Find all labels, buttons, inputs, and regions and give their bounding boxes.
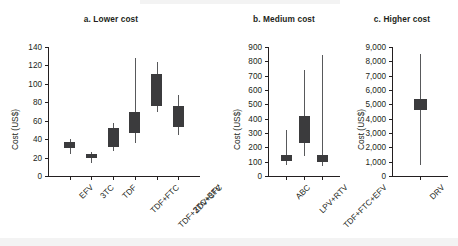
y-axis-line	[392, 47, 393, 177]
y-axis-tick-label: 500	[228, 100, 262, 109]
y-axis-tick-label: 40	[8, 135, 42, 144]
figure-canvas: a. Lower cost Cost (US$) 020406080100120…	[0, 0, 458, 246]
y-axis-tick-label: 140	[8, 43, 42, 52]
y-axis-tick	[389, 90, 392, 91]
y-axis-tick-label: 120	[8, 61, 42, 70]
y-axis-tick	[389, 162, 392, 163]
panel-higher-cost: c. Higher cost Cost (US$) 01,0002,0003,0…	[346, 0, 458, 246]
x-axis-category-label: TDF	[121, 183, 139, 201]
x-axis-tick	[178, 177, 179, 180]
box-plot-box	[151, 74, 162, 106]
y-axis-tick-label: 400	[228, 114, 262, 123]
panel-lower-cost: a. Lower cost Cost (US$) 020406080100120…	[0, 0, 222, 246]
x-axis-tick	[157, 177, 158, 180]
y-axis-tick-label: 60	[8, 116, 42, 125]
y-axis-tick-label: 0	[352, 172, 386, 181]
y-axis-tick	[45, 176, 48, 177]
panel-c-plot-area: 01,0002,0003,0004,0005,0006,0007,0008,00…	[346, 0, 458, 246]
x-axis-tick	[91, 177, 92, 180]
y-axis-tick-label: 100	[228, 157, 262, 166]
y-axis-tick	[45, 139, 48, 140]
y-axis-tick	[389, 147, 392, 148]
box-plot-box	[299, 116, 310, 143]
y-axis-tick-label: 700	[228, 71, 262, 80]
box-plot-box	[414, 99, 427, 110]
x-axis-category-label: ZDV+3TC	[192, 183, 224, 215]
y-axis-tick	[45, 65, 48, 66]
y-axis-tick	[265, 119, 268, 120]
y-axis-tick	[45, 47, 48, 48]
y-axis-tick	[265, 176, 268, 177]
x-axis-tick	[322, 177, 323, 180]
x-axis-tick	[113, 177, 114, 180]
x-axis-category-label: DRV	[428, 183, 446, 201]
y-axis-tick-label: 0	[228, 172, 262, 181]
y-axis-tick	[265, 133, 268, 134]
box-plot-box	[86, 154, 97, 159]
box-whisker	[304, 70, 305, 156]
y-axis-tick-label: 600	[228, 86, 262, 95]
y-axis-tick	[389, 76, 392, 77]
x-axis-tick	[286, 177, 287, 180]
y-axis-tick	[265, 90, 268, 91]
panel-a-plot-area: 020406080100120140EFV3TCTDFTDF+FTCTDF+3T…	[0, 0, 222, 246]
y-axis-tick-label: 6,000	[352, 86, 386, 95]
y-axis-tick	[45, 158, 48, 159]
y-axis-tick-label: 8,000	[352, 57, 386, 66]
y-axis-tick	[45, 121, 48, 122]
y-axis-tick	[265, 47, 268, 48]
y-axis-tick-label: 1,000	[352, 157, 386, 166]
panel-b-plot-area: 0100200300400500600700800900ABCLPV+RTVTD…	[222, 0, 346, 246]
y-axis-tick	[389, 47, 392, 48]
y-axis-tick-label: 5,000	[352, 100, 386, 109]
x-axis-tick	[420, 177, 421, 180]
y-axis-tick	[265, 61, 268, 62]
y-axis-tick	[265, 162, 268, 163]
y-axis-tick-label: 9,000	[352, 43, 386, 52]
y-axis-tick-label: 200	[228, 143, 262, 152]
y-axis-tick-label: 80	[8, 98, 42, 107]
box-plot-box	[108, 128, 119, 146]
y-axis-tick-label: 300	[228, 129, 262, 138]
y-axis-tick	[389, 176, 392, 177]
box-plot-box	[173, 106, 184, 127]
y-axis-tick	[389, 61, 392, 62]
x-axis-tick	[135, 177, 136, 180]
x-axis-category-label: EFV	[77, 183, 95, 201]
y-axis-tick	[265, 104, 268, 105]
y-axis-tick-label: 4,000	[352, 114, 386, 123]
y-axis-tick-label: 3,000	[352, 129, 386, 138]
y-axis-tick-label: 7,000	[352, 71, 386, 80]
y-axis-tick-label: 20	[8, 153, 42, 162]
y-axis-line	[268, 47, 269, 177]
y-axis-line	[48, 47, 49, 177]
x-axis-category-label: 3TC	[99, 183, 116, 200]
x-axis-tick	[70, 177, 71, 180]
y-axis-tick	[389, 133, 392, 134]
box-plot-box	[64, 142, 75, 148]
y-axis-tick	[265, 76, 268, 77]
x-axis-category-label: ABC	[294, 183, 312, 201]
y-axis-tick-label: 0	[8, 172, 42, 181]
y-axis-tick	[45, 84, 48, 85]
y-axis-tick-label: 2,000	[352, 143, 386, 152]
x-axis-tick	[304, 177, 305, 180]
x-axis-line	[48, 176, 200, 177]
y-axis-tick-label: 900	[228, 43, 262, 52]
y-axis-tick	[389, 104, 392, 105]
panel-medium-cost: b. Medium cost Cost (US$) 01002003004005…	[222, 0, 346, 246]
box-whisker	[322, 55, 323, 166]
y-axis-tick-label: 100	[8, 79, 42, 88]
x-axis-category-label: TDF+FTC	[149, 183, 181, 215]
box-plot-box	[317, 155, 328, 161]
y-axis-tick-label: 800	[228, 57, 262, 66]
box-plot-box	[129, 112, 140, 132]
box-plot-box	[281, 155, 292, 161]
y-axis-tick	[389, 119, 392, 120]
y-axis-tick	[265, 147, 268, 148]
y-axis-tick	[45, 102, 48, 103]
